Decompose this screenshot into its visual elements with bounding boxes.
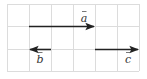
vectors: abc: [29, 12, 138, 66]
vector-c-label: c: [125, 53, 131, 66]
vector-b: b: [30, 50, 51, 66]
vector-a-label: a: [81, 12, 88, 25]
vector-c: c: [95, 50, 138, 66]
vector-grid-diagram: abc: [0, 0, 147, 79]
vector-a: a: [29, 12, 94, 27]
grid: [7, 4, 140, 72]
vector-b-label: b: [36, 53, 43, 66]
